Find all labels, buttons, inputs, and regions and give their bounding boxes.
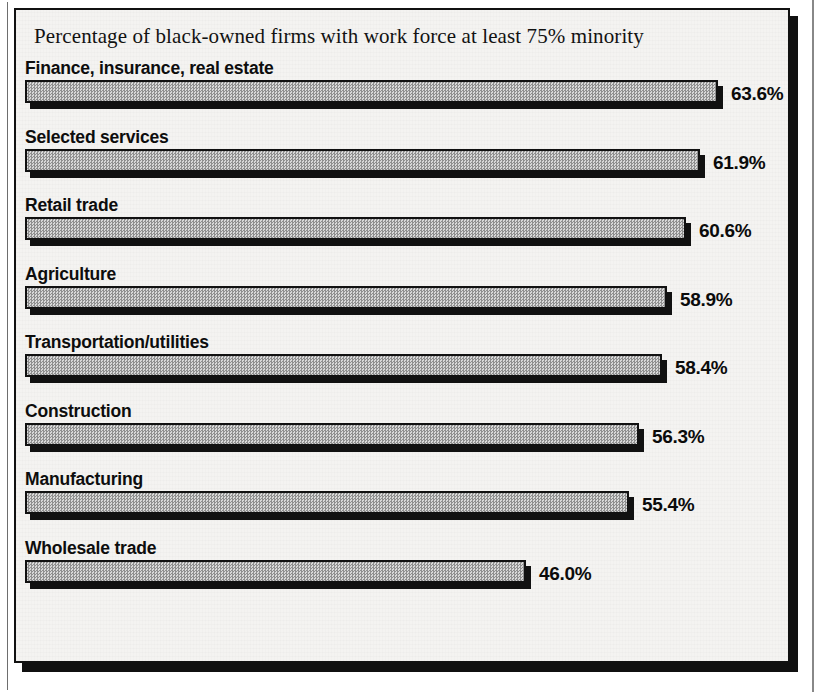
bar-value-label: 55.4%: [642, 494, 694, 516]
bar-track: 63.6%: [25, 80, 788, 110]
bar-value-label: 61.9%: [713, 152, 765, 174]
chart-title: Percentage of black-owned firms with wor…: [34, 23, 764, 49]
bar-group: Manufacturing55.4%: [16, 469, 788, 531]
scan-edge-right: [812, 0, 814, 692]
bar[interactable]: [25, 423, 639, 446]
bar-category-label: Transportation/utilities: [25, 332, 209, 352]
bar-value-label: 58.4%: [675, 357, 727, 379]
bar-track: 58.9%: [25, 286, 788, 316]
bar[interactable]: [25, 149, 700, 172]
bar-category-label: Manufacturing: [25, 469, 143, 489]
bar-track: 56.3%: [25, 423, 788, 453]
bar-category-label: Construction: [25, 401, 131, 421]
bar-value-label: 60.6%: [699, 220, 751, 242]
bar-track: 61.9%: [25, 149, 788, 179]
bar-category-label: Agriculture: [25, 264, 116, 284]
bar[interactable]: [25, 217, 686, 240]
bar-group: Transportation/utilities58.4%: [16, 332, 788, 394]
bar-category-label: Retail trade: [25, 195, 118, 215]
bar[interactable]: [25, 80, 718, 103]
bar-value-label: 46.0%: [539, 563, 591, 585]
bar[interactable]: [25, 491, 629, 514]
scan-edge-left: [7, 2, 8, 690]
bar-value-label: 63.6%: [731, 83, 783, 105]
bar[interactable]: [25, 286, 667, 309]
frame-shadow-bottom: [22, 663, 798, 672]
bar-value-label: 56.3%: [652, 426, 704, 448]
bar-category-label: Finance, insurance, real estate: [25, 58, 274, 78]
scanned-page: Percentage of black-owned firms with wor…: [0, 0, 820, 692]
bar-track: 60.6%: [25, 217, 788, 247]
bar-group: Selected services61.9%: [16, 127, 788, 189]
bar[interactable]: [25, 560, 526, 583]
bar-track: 55.4%: [25, 491, 788, 521]
bar-category-label: Selected services: [25, 127, 169, 147]
bar-track: 58.4%: [25, 354, 788, 384]
frame-shadow-right: [790, 16, 798, 671]
bar[interactable]: [25, 354, 662, 377]
bar-track: 46.0%: [25, 560, 788, 590]
bar-group: Retail trade60.6%: [16, 195, 788, 257]
bar-chart-plot-area: Finance, insurance, real estate63.6%Sele…: [16, 58, 788, 661]
chart-frame: Percentage of black-owned firms with wor…: [14, 8, 790, 663]
bar-value-label: 58.9%: [680, 289, 732, 311]
bar-group: Finance, insurance, real estate63.6%: [16, 58, 788, 120]
bar-group: Wholesale trade46.0%: [16, 538, 788, 600]
bar-category-label: Wholesale trade: [25, 538, 156, 558]
bar-group: Agriculture58.9%: [16, 264, 788, 326]
bar-group: Construction56.3%: [16, 401, 788, 463]
